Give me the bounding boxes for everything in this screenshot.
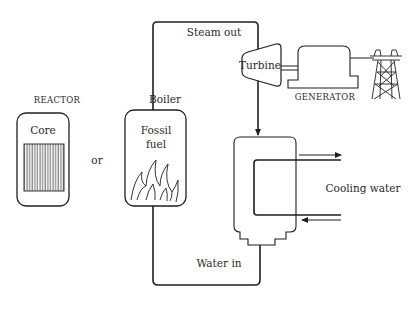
generator: GENERATOR — [288, 46, 358, 102]
or-connector: or — [91, 154, 103, 166]
core-label: Core — [30, 124, 56, 136]
boiler: Boiler Fossil fuel — [125, 93, 186, 206]
power-plant-diagram: Steam out Water in REACTOR Core or Boile… — [0, 0, 411, 317]
condenser: Cooling water — [234, 137, 401, 245]
reactor-title: REACTOR — [34, 95, 81, 105]
steam-out-label: Steam out — [187, 26, 242, 38]
cooling-water-label: Cooling water — [326, 182, 402, 194]
boiler-label: Boiler — [149, 93, 182, 105]
transmission-tower-icon — [370, 50, 402, 99]
reactor: REACTOR Core — [17, 95, 80, 206]
fuel-label-line1: Fossil — [141, 124, 172, 136]
reactor-core-rods — [24, 144, 64, 191]
turbine: Turbine — [239, 44, 281, 86]
generator-label: GENERATOR — [295, 92, 356, 102]
fuel-label-line2: fuel — [146, 138, 167, 150]
turbine-shaft — [281, 66, 298, 70]
water-in-label: Water in — [196, 257, 241, 269]
turbine-label: Turbine — [239, 59, 281, 71]
